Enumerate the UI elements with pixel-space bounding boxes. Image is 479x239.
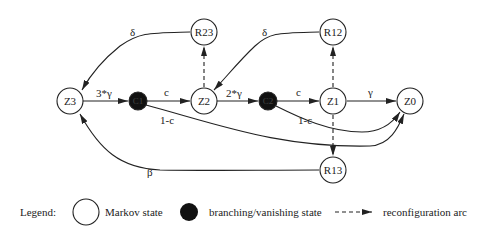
svg-text:Z2: Z2 [198, 95, 210, 107]
svg-text:R23: R23 [195, 26, 214, 38]
node-z3: Z3 [57, 88, 83, 114]
edge-c1-z0 [146, 105, 404, 146]
svg-text:C1: C1 [133, 96, 144, 106]
legend-markov-icon [73, 199, 99, 225]
node-c2: C2 [259, 92, 277, 110]
svg-text:R12: R12 [324, 26, 342, 38]
markov-diagram: 3*γ c 1-c 2*γ c 1-c γ δ δ β Z3 C1 Z2 C2 … [0, 0, 479, 239]
legend-branching-label: branching/vanishing state [209, 206, 322, 218]
svg-text:Z3: Z3 [64, 95, 77, 107]
svg-text:C2: C2 [263, 96, 274, 106]
node-r13: R13 [320, 157, 346, 183]
legend-branching-icon [180, 203, 198, 221]
svg-text:Z0: Z0 [404, 95, 417, 107]
legend-reconfig-label: reconfiguration arc [383, 206, 467, 218]
label-c1-z0: 1-c [160, 114, 174, 126]
legend-title: Legend: [20, 206, 56, 218]
label-r12-z2: δ [262, 26, 267, 38]
node-r12: R12 [320, 19, 346, 45]
node-z2: Z2 [191, 88, 217, 114]
edge-r23-z3 [82, 32, 190, 90]
node-z0: Z0 [397, 88, 423, 114]
node-c1: C1 [129, 92, 147, 110]
node-z1: Z1 [320, 88, 346, 114]
label-c2-z1: c [296, 86, 301, 98]
label-r13-z3: β [147, 166, 153, 178]
label-c2-z0: 1-c [298, 114, 312, 126]
label-z2-c2: 2*γ [226, 87, 242, 99]
edge-r13-z3 [80, 114, 319, 170]
label-c1-z2: c [164, 86, 169, 98]
svg-text:R13: R13 [324, 164, 343, 176]
edge-r12-z2 [214, 32, 319, 90]
legend: Legend: Markov state branching/vanishing… [20, 199, 467, 225]
label-z3-c1: 3*γ [96, 87, 112, 99]
label-r23-z3: δ [130, 26, 135, 38]
legend-markov-label: Markov state [105, 206, 163, 218]
label-z1-z0: γ [367, 86, 373, 98]
node-r23: R23 [191, 19, 217, 45]
svg-text:Z1: Z1 [327, 95, 339, 107]
